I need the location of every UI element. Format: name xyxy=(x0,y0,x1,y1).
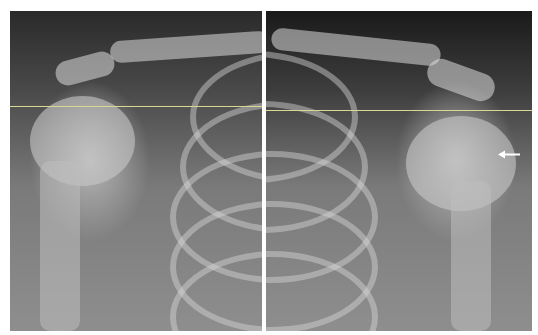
humerus-shaft-right xyxy=(451,181,491,331)
humerus-shaft-left xyxy=(40,161,80,331)
acromion-left xyxy=(53,49,117,89)
clavicle-left xyxy=(109,30,262,63)
reference-line-left xyxy=(10,106,262,107)
xray-panel-left xyxy=(10,11,262,331)
xray-panel-right xyxy=(266,11,532,331)
reference-line-right xyxy=(266,110,532,111)
arrow-icon xyxy=(498,150,520,159)
acromion-right xyxy=(423,55,498,105)
